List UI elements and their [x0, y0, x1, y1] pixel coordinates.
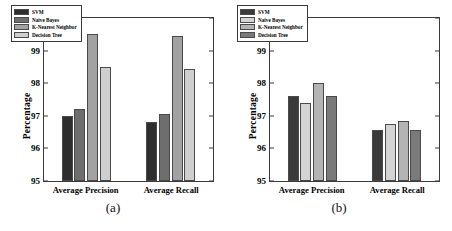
- panel-b: Percentage 9596979899100 SVM Naive Bayes…: [226, 0, 452, 231]
- x-axis-group-label: Average Recall: [144, 185, 199, 195]
- bar: [410, 130, 421, 181]
- legend-label-svm: SVM: [258, 9, 270, 15]
- legend-item: Naive Bayes: [14, 16, 77, 23]
- legend-swatch-naive-bayes: [240, 17, 255, 23]
- legend-item: K-Nearest Neighbor: [240, 24, 303, 31]
- bar: [326, 96, 337, 181]
- legend-a: SVM Naive Bayes K-Nearest Neighbor Decis…: [11, 5, 82, 42]
- legend-item: K-Nearest Neighbor: [14, 24, 77, 31]
- bar: [313, 83, 324, 181]
- figure-two-panel-bar-charts: Percentage 9596979899100 SVM Naive Bayes…: [0, 0, 452, 231]
- y-tick-label: 97: [257, 111, 266, 121]
- bars-layer-a: [44, 18, 213, 181]
- bar: [74, 109, 85, 181]
- legend-swatch-knn: [240, 24, 255, 30]
- plot-area-a: 9596979899100: [43, 17, 214, 182]
- y-tick-label: 96: [31, 143, 40, 153]
- y-tick-label: 96: [257, 143, 266, 153]
- bar: [385, 124, 396, 181]
- bar: [159, 114, 170, 181]
- legend-item: SVM: [240, 8, 303, 15]
- bar: [172, 36, 183, 181]
- legend-label-naive-bayes: Naive Bayes: [32, 17, 59, 23]
- x-axis-group-label: Average Precision: [279, 185, 345, 195]
- bar: [87, 34, 98, 181]
- bar: [288, 96, 299, 181]
- x-axis-group-labels-a: Average PrecisionAverage Recall: [43, 185, 214, 197]
- y-tick-label: 98: [31, 78, 40, 88]
- bar: [398, 121, 409, 181]
- x-axis-group-label: Average Precision: [53, 185, 119, 195]
- legend-swatch-svm: [14, 9, 29, 15]
- panel-caption-a: (a): [0, 200, 226, 216]
- bar: [300, 103, 311, 181]
- y-tick-label: 95: [257, 176, 266, 186]
- x-axis-group-labels-b: Average PrecisionAverage Recall: [269, 185, 440, 197]
- legend-swatch-decision-tree: [14, 32, 29, 38]
- legend-label-decision-tree: Decision Tree: [258, 32, 288, 38]
- panel-caption-b: (b): [226, 200, 452, 216]
- legend-swatch-naive-bayes: [14, 17, 29, 23]
- y-tick-label: 98: [257, 78, 266, 88]
- bar: [184, 69, 195, 181]
- legend-swatch-decision-tree: [240, 32, 255, 38]
- legend-item: Decision Tree: [14, 31, 77, 38]
- plot-area-b: 9596979899100: [269, 17, 440, 182]
- y-tick-label: 99: [31, 46, 40, 56]
- y-tick-label: 99: [257, 46, 266, 56]
- panel-a: Percentage 9596979899100 SVM Naive Bayes…: [0, 0, 226, 231]
- legend-swatch-svm: [240, 9, 255, 15]
- bar: [100, 67, 111, 181]
- legend-label-svm: SVM: [32, 9, 44, 15]
- y-tick-label: 97: [31, 111, 40, 121]
- legend-item: SVM: [14, 8, 77, 15]
- legend-item: Naive Bayes: [240, 16, 303, 23]
- legend-label-decision-tree: Decision Tree: [32, 32, 62, 38]
- bar: [372, 130, 383, 181]
- legend-b: SVM Naive Bayes K-Nearest Neighbor Decis…: [237, 5, 308, 42]
- bar: [62, 116, 73, 181]
- legend-swatch-knn: [14, 24, 29, 30]
- bar: [146, 122, 157, 181]
- x-axis-group-label: Average Recall: [370, 185, 425, 195]
- legend-label-knn: K-Nearest Neighbor: [258, 24, 303, 30]
- bars-layer-b: [270, 18, 439, 181]
- legend-label-naive-bayes: Naive Bayes: [258, 17, 285, 23]
- legend-item: Decision Tree: [240, 31, 303, 38]
- legend-label-knn: K-Nearest Neighbor: [32, 24, 77, 30]
- y-tick-label: 95: [31, 176, 40, 186]
